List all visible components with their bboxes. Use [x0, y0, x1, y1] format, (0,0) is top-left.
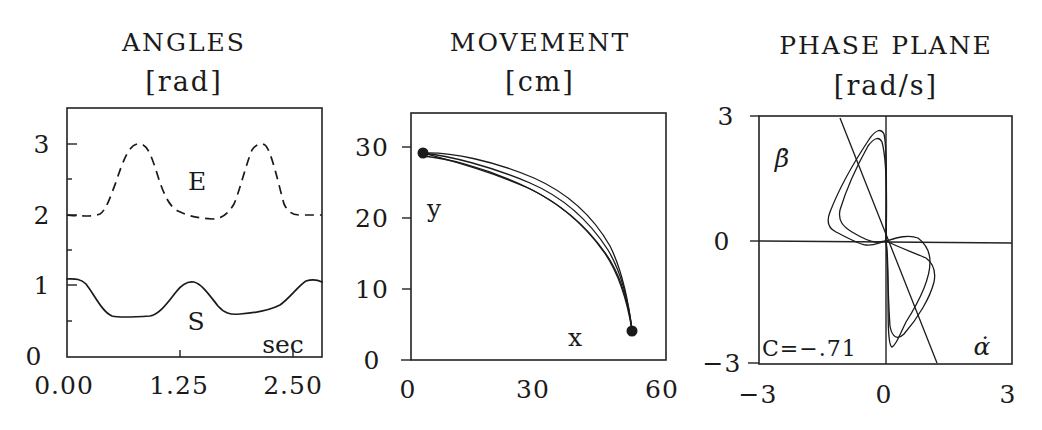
start-point-marker	[418, 148, 429, 159]
panel-movement-unit: [cm]	[505, 66, 575, 97]
panel-movement-x-axis-label: x	[568, 323, 582, 352]
panel-movement-y-ticks	[401, 147, 411, 360]
panel-phase-title: PHASE PLANE	[779, 31, 993, 60]
end-point-marker	[627, 326, 638, 337]
panel-movement: MOVEMENT [cm] 30 20 10 0 0 30 60 y x	[355, 28, 679, 404]
panel-phase-x-axis-label: α̇	[974, 332, 991, 361]
panel-phase-plane: PHASE PLANE [rad/s] 3 0 −3 −3 0 3 β̇ α̇ …	[703, 31, 1017, 409]
panel-movement-plot-area	[411, 113, 666, 360]
panel-movement-y-axis-label: y	[426, 194, 442, 223]
panel-angles-xtick-1: 1.25	[149, 371, 209, 400]
panel-movement-title: MOVEMENT	[450, 28, 630, 57]
panel-phase-y-axis-label: β̇	[774, 144, 789, 173]
panel-movement-xtick-60: 60	[645, 375, 679, 404]
figure: ANGLES [rad] 3 2 1 0 0.00 1.25 2.50 E S	[0, 0, 1042, 430]
panel-phase-xtick-3: 3	[1000, 380, 1017, 409]
phase-loop-1	[828, 131, 930, 347]
panel-angles-y-ticks	[67, 144, 77, 321]
panel-movement-ytick-30: 30	[355, 133, 389, 162]
panel-phase-unit: [rad/s]	[834, 70, 938, 101]
series-E-label: E	[188, 167, 206, 196]
panel-angles-ytick-3: 3	[34, 130, 51, 159]
panel-angles: ANGLES [rad] 3 2 1 0 0.00 1.25 2.50 E S	[26, 28, 323, 400]
panel-phase-xtick-0: 0	[876, 380, 893, 409]
panel-angles-ytick-0: 0	[26, 342, 43, 371]
panel-movement-xtick-0: 0	[400, 375, 417, 404]
movement-trajectories	[423, 153, 632, 330]
panel-angles-ytick-2: 2	[34, 201, 51, 230]
panel-phase-ytick-neg3: −3	[703, 349, 742, 378]
trajectory-2	[423, 153, 632, 330]
panel-angles-xtick-0: 0.00	[34, 371, 94, 400]
panel-phase-xtick-neg3: −3	[739, 380, 778, 409]
trajectory-3	[423, 153, 632, 330]
series-S-label: S	[187, 307, 204, 336]
panel-phase-ytick-3: 3	[718, 102, 735, 131]
panel-movement-ytick-10: 10	[355, 275, 389, 304]
panel-phase-y-ticks	[748, 116, 759, 363]
panel-angles-x-axis-label: sec	[262, 330, 304, 359]
panel-phase-ytick-0: 0	[714, 227, 731, 256]
panel-movement-xtick-30: 30	[516, 375, 550, 404]
trajectory-1	[423, 153, 632, 330]
correlation-annotation: C=−.71	[762, 336, 857, 361]
panel-angles-xtick-2: 2.50	[263, 371, 323, 400]
panel-angles-title: ANGLES	[121, 28, 246, 57]
panel-angles-unit: [rad]	[145, 66, 222, 97]
panel-angles-ytick-1: 1	[34, 271, 51, 300]
panel-movement-ytick-20: 20	[355, 204, 389, 233]
panel-movement-ytick-0: 0	[364, 346, 381, 375]
